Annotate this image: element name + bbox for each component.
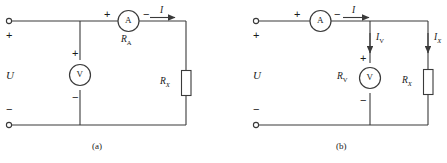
label-a-source-voltage: U bbox=[6, 70, 14, 81]
label-a-current: I bbox=[160, 6, 163, 16]
label-b-terminal-minus: − bbox=[253, 104, 259, 115]
voltmeter-b-symbol: V bbox=[367, 73, 374, 82]
label-b-current-total: I bbox=[352, 6, 355, 16]
label-b-current-voltmeter: IV bbox=[376, 33, 384, 44]
label-a-voltmeter-minus: − bbox=[72, 92, 78, 103]
label-a-terminal-plus: + bbox=[6, 30, 12, 41]
terminal-a-positive bbox=[6, 18, 11, 23]
label-a-ammeter-plus: + bbox=[104, 9, 110, 20]
circuit-a-wires bbox=[9, 21, 186, 125]
label-a-resistor: RX bbox=[160, 77, 170, 88]
caption-b: (b) bbox=[336, 142, 347, 151]
ammeter-a-symbol: A bbox=[125, 16, 132, 25]
terminal-b-positive bbox=[253, 18, 258, 23]
terminal-a-negative bbox=[6, 122, 11, 127]
label-a-ammeter-resistance: RA bbox=[121, 35, 132, 46]
label-b-resistor: RX bbox=[402, 76, 412, 87]
label-b-voltmeter-resistance: RV bbox=[337, 72, 348, 83]
label-a-terminal-minus: − bbox=[6, 104, 12, 115]
resistor-b-body bbox=[424, 70, 434, 95]
ammeter-b-symbol: A bbox=[317, 16, 324, 25]
voltmeter-a-symbol: V bbox=[77, 70, 84, 79]
label-b-voltmeter-plus: + bbox=[360, 53, 366, 64]
circuit-diagram-svg bbox=[0, 0, 447, 163]
label-b-voltmeter-minus: − bbox=[360, 95, 366, 106]
label-b-ammeter-minus: − bbox=[334, 9, 340, 20]
label-a-voltmeter-plus: + bbox=[72, 48, 78, 59]
caption-a: (a) bbox=[92, 142, 102, 151]
label-a-ammeter-minus: − bbox=[143, 9, 149, 20]
resistor-a-body bbox=[182, 71, 192, 96]
label-b-terminal-plus: + bbox=[253, 30, 259, 41]
label-b-ammeter-plus: + bbox=[294, 9, 300, 20]
terminal-b-negative bbox=[253, 122, 258, 127]
label-b-current-resistor: IX bbox=[434, 33, 441, 44]
figure-root: + U − + A − RA I + V − RX (a) + U − + A … bbox=[0, 0, 447, 163]
label-b-source-voltage: U bbox=[253, 70, 261, 81]
